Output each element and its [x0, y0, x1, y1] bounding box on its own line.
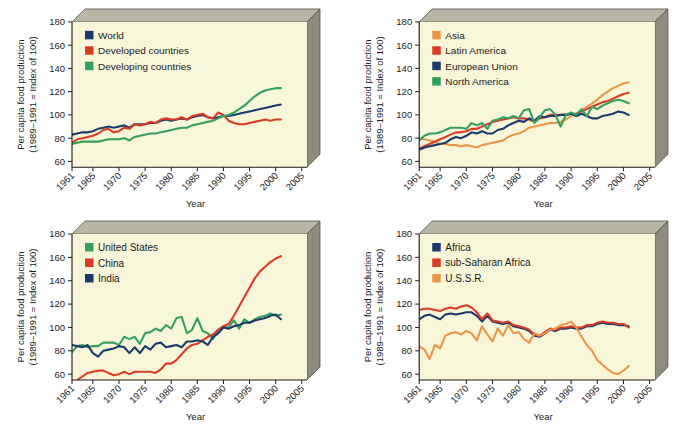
plot-top-face: [419, 9, 668, 22]
x-tick-label: 1980: [500, 383, 523, 406]
y-tick-label: 60: [402, 156, 413, 167]
legend-label: Africa: [445, 242, 471, 253]
legend-label: World: [98, 30, 124, 41]
legend-label: Asia: [445, 30, 465, 41]
y-tick-label: 180: [49, 16, 65, 27]
legend-swatch: [85, 62, 94, 70]
y-tick-label: 120: [396, 86, 412, 97]
x-tick-label: 1970: [448, 170, 471, 193]
legend-swatch: [85, 274, 94, 283]
y-tick-label: 140: [49, 275, 65, 286]
x-axis-title: Year: [533, 198, 552, 209]
legend-swatch: [432, 77, 441, 85]
legend-swatch: [432, 259, 441, 268]
y-axis-ticks: 6080100120140160180: [396, 228, 419, 379]
legend-label: North America: [445, 76, 509, 87]
y-tick-label: 180: [396, 16, 412, 27]
legend-swatch: [432, 274, 441, 283]
plot-area-background: [419, 234, 655, 380]
y-tick-label: 180: [49, 228, 65, 239]
x-tick-label: 1961: [54, 170, 77, 193]
legend-swatch: [432, 243, 441, 252]
x-tick-label: 1965: [422, 170, 445, 193]
x-tick-label: 1980: [500, 170, 523, 193]
x-tick-label: 1985: [179, 383, 202, 406]
x-tick-label: 1975: [474, 170, 497, 193]
x-tick-label: 1961: [401, 170, 424, 193]
x-tick-label: 1980: [153, 170, 176, 193]
x-tick-label: 2000: [605, 170, 628, 193]
x-tick-label: 1990: [205, 383, 228, 406]
x-tick-label: 1961: [54, 383, 77, 406]
legend-swatch: [432, 62, 441, 70]
y-axis-title-line1: Per capita food production: [15, 252, 26, 363]
y-axis-title-line1: Per capita food production: [15, 39, 26, 149]
legend-label: United States: [98, 242, 158, 253]
x-tick-label: 1961: [401, 383, 424, 406]
panel-top-left: 6080100120140160180196119651970197519801…: [0, 0, 347, 212]
x-tick-label: 1970: [101, 383, 124, 406]
panel-bottom-left-canvas: 6080100120140160180196119651970197519801…: [0, 212, 347, 425]
four-panel-line-chart-figure: 6080100120140160180196119651970197519801…: [0, 0, 695, 425]
y-tick-label: 60: [54, 369, 65, 380]
y-tick-label: 120: [49, 298, 65, 309]
legend-label: sub-Saharan Africa: [445, 258, 531, 269]
y-axis-title: Per capita food production(1989–1991 = I…: [362, 249, 385, 366]
y-axis-title: Per capita food production(1989–1991 = I…: [15, 249, 38, 366]
legend-label: Developing countries: [98, 61, 191, 72]
x-axis-title: Year: [186, 198, 205, 209]
legend-label: U.S.S.R.: [445, 273, 484, 284]
x-tick-label: 1975: [127, 170, 150, 193]
plot-area-background: [72, 22, 307, 167]
x-tick-label: 1995: [231, 170, 254, 193]
y-tick-label: 120: [49, 86, 65, 97]
x-tick-label: 1965: [75, 170, 98, 193]
y-tick-label: 80: [402, 345, 413, 356]
plot-top-face: [72, 9, 320, 22]
legend-label: India: [98, 273, 120, 284]
x-tick-label: 1995: [579, 383, 602, 406]
x-tick-label: 1975: [474, 383, 497, 406]
x-tick-label: 1985: [179, 170, 202, 193]
y-axis-title-line2: (1989–1991 = Index of 100): [374, 249, 385, 366]
x-axis-ticks: 1961196519701975198019851990199520002005: [54, 380, 307, 405]
panel-bottom-right-canvas: 6080100120140160180196119651970197519801…: [347, 212, 695, 425]
x-tick-label: 2000: [605, 383, 628, 406]
y-tick-label: 160: [49, 252, 65, 263]
plot-area-background: [72, 234, 307, 380]
x-tick-label: 1990: [553, 170, 576, 193]
legend-swatch: [432, 46, 441, 54]
plot-top-face: [72, 221, 320, 234]
x-axis-ticks: 1961196519701975198019851990199520002005: [401, 380, 654, 405]
legend-label: European Union: [445, 61, 517, 72]
x-tick-label: 1995: [579, 170, 602, 193]
y-tick-label: 80: [54, 345, 65, 356]
y-tick-label: 120: [396, 298, 412, 309]
legend-label: China: [98, 258, 125, 269]
y-tick-label: 100: [396, 109, 412, 120]
y-tick-label: 100: [49, 109, 65, 120]
legend-label: Latin America: [445, 45, 506, 56]
y-tick-label: 60: [54, 156, 65, 167]
y-axis-ticks: 6080100120140160180: [49, 228, 72, 379]
x-tick-label: 2005: [283, 170, 306, 193]
y-tick-label: 140: [396, 275, 412, 286]
x-tick-label: 1970: [448, 383, 471, 406]
x-tick-label: 1965: [422, 383, 445, 406]
x-tick-label: 1990: [553, 383, 576, 406]
x-tick-label: 1995: [231, 383, 254, 406]
x-tick-label: 2000: [257, 383, 280, 406]
x-axis-title: Year: [533, 411, 552, 422]
panel-top-right-canvas: 6080100120140160180196119651970197519801…: [347, 0, 695, 212]
y-axis-ticks: 6080100120140160180: [49, 16, 72, 166]
y-tick-label: 80: [402, 133, 413, 144]
y-axis-title: Per capita food production(1989–1991 = I…: [15, 36, 38, 152]
y-tick-label: 100: [396, 322, 412, 333]
y-tick-label: 60: [402, 369, 413, 380]
x-axis-ticks: 1961196519701975198019851990199520002005: [54, 167, 307, 192]
y-tick-label: 140: [396, 63, 412, 74]
legend-swatch: [85, 259, 94, 268]
x-tick-label: 1975: [127, 383, 150, 406]
y-tick-label: 140: [49, 63, 65, 74]
plot-right-face: [655, 221, 668, 380]
